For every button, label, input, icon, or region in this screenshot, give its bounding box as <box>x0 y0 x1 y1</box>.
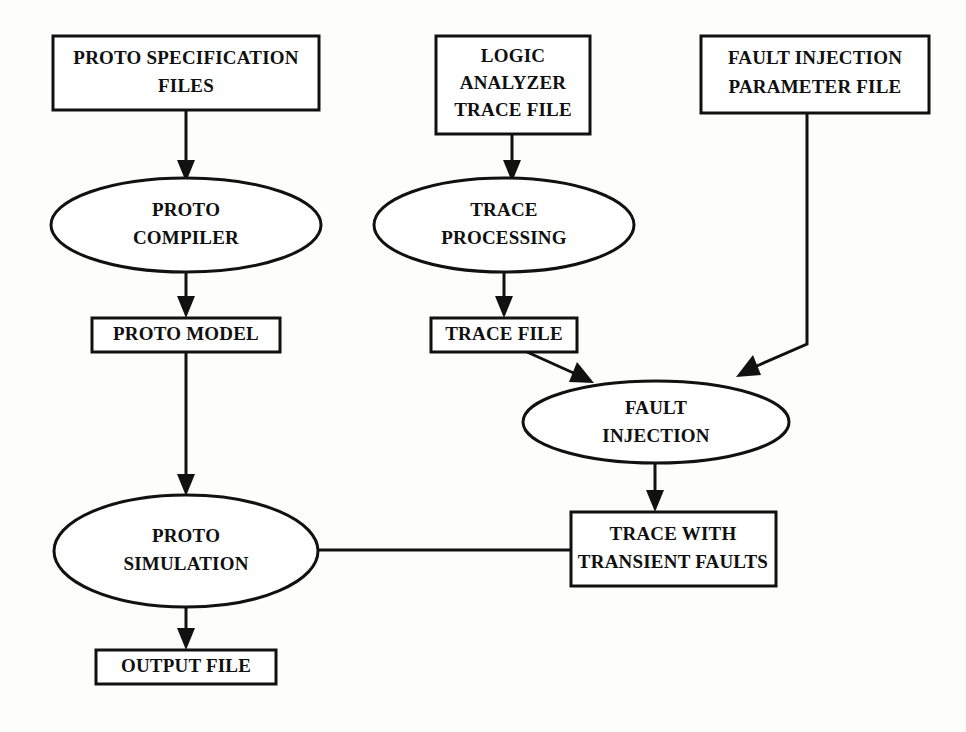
node-output-file[interactable]: OUTPUT FILE <box>96 650 276 684</box>
flowchart-svg: PROTO SPECIFICATION FILES LOGIC ANALYZER… <box>0 0 966 732</box>
node-label-line: PROTO <box>152 525 220 546</box>
node-proto-model[interactable]: PROTO MODEL <box>92 318 280 352</box>
edge-model-to-simulation <box>177 352 195 496</box>
node-label-line: TRACE FILE <box>454 99 572 120</box>
edge-compiler-to-model <box>177 272 195 318</box>
node-label-line: TRACE <box>470 199 538 220</box>
node-label-line: OUTPUT FILE <box>121 655 251 676</box>
node-label-line: TRACE FILE <box>445 323 563 344</box>
node-label-line: INJECTION <box>602 425 709 446</box>
node-label-line: COMPILER <box>133 227 239 248</box>
edge-analyzer-to-processing <box>503 134 521 182</box>
node-proto-specification-files[interactable]: PROTO SPECIFICATION FILES <box>53 36 319 110</box>
edge-paramfile-to-faultinjection <box>736 113 807 377</box>
node-label-line: SIMULATION <box>123 553 248 574</box>
node-label-line: PROTO <box>152 199 220 220</box>
node-label-line: ANALYZER <box>460 72 567 93</box>
edge-spec-to-compiler <box>177 110 195 182</box>
edge-tracefile-to-faultinjection <box>527 352 594 383</box>
node-logic-analyzer-trace-file[interactable]: LOGIC ANALYZER TRACE FILE <box>436 36 590 134</box>
node-fault-injection[interactable]: FAULT INJECTION <box>523 381 789 463</box>
node-label-line: FAULT INJECTION <box>728 47 902 68</box>
node-trace-file[interactable]: TRACE FILE <box>431 318 577 352</box>
flowchart-canvas: PROTO SPECIFICATION FILES LOGIC ANALYZER… <box>0 0 966 732</box>
node-label-line: PROTO MODEL <box>113 323 259 344</box>
node-label-line: TRANSIENT FAULTS <box>578 551 768 572</box>
edge-faultinjection-to-transient <box>646 462 664 512</box>
edge-processing-to-tracefile <box>495 272 513 318</box>
node-label-line: PROCESSING <box>441 227 567 248</box>
node-label-line: PROTO SPECIFICATION <box>73 47 298 68</box>
node-proto-compiler[interactable]: PROTO COMPILER <box>51 178 321 272</box>
node-proto-simulation[interactable]: PROTO SIMULATION <box>54 495 318 607</box>
node-label-line: PARAMETER FILE <box>729 76 902 97</box>
node-label-line: FILES <box>158 75 214 96</box>
node-trace-with-transient-faults[interactable]: TRACE WITH TRANSIENT FAULTS <box>571 512 776 586</box>
node-label-line: LOGIC <box>481 45 545 66</box>
node-fault-injection-parameter-file[interactable]: FAULT INJECTION PARAMETER FILE <box>701 36 929 113</box>
node-trace-processing[interactable]: TRACE PROCESSING <box>374 178 634 272</box>
node-label-line: TRACE WITH <box>610 523 737 544</box>
node-label-line: FAULT <box>625 397 687 418</box>
edge-simulation-to-output <box>177 608 195 650</box>
